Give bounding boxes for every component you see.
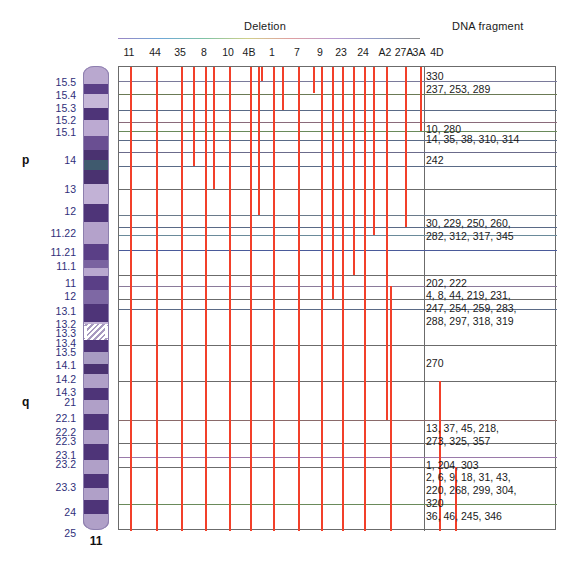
deletion-bar-mid-8b [213, 67, 215, 189]
chromosome-band [83, 488, 109, 500]
chromosome-band-labels: 15.515.415.315.215.114131211.2211.2111.1… [0, 0, 76, 570]
deletion-column-label-4D: 4D [430, 46, 443, 58]
dna-fragment-header-title: DNA fragment [452, 20, 523, 32]
chromosome-band [83, 136, 109, 150]
chromosome-band [83, 160, 109, 170]
chromosome-band [83, 430, 109, 444]
deletion-column-label-8: 8 [201, 46, 207, 58]
deletion-column-label-23: 23 [335, 46, 347, 58]
chromosome-band [83, 364, 109, 374]
band-label-11.22: 11.22 [51, 227, 77, 239]
band-label-11: 11 [65, 277, 76, 289]
grid-row-divider [119, 110, 557, 111]
chromosome-band [83, 444, 109, 460]
chromosome-band [83, 276, 109, 290]
chromosome-band [83, 304, 109, 322]
deletion-bar-4B [250, 67, 252, 531]
grid-row-divider [119, 275, 557, 276]
band-label-15.3: 15.3 [56, 102, 76, 114]
deletion-bar-1 [273, 67, 275, 531]
deletion-bar-7 [298, 67, 300, 531]
grid-row-divider [119, 189, 557, 190]
deletion-column-label-7: 7 [294, 46, 300, 58]
deletion-bar-35 [181, 67, 183, 531]
chromosome-number-label: 11 [83, 534, 109, 548]
chromosome-band [83, 290, 109, 304]
grid-row-divider [119, 94, 557, 95]
deletion-bar-long-24b [373, 67, 375, 235]
dna-fragment-list: 13, 37, 45, 218, 273, 325, 357 [426, 422, 499, 448]
centromere-pinch [105, 326, 109, 338]
band-label-15.4: 15.4 [56, 89, 76, 101]
centromere-pinch [83, 326, 87, 338]
grid-row-divider [119, 250, 557, 251]
dna-fragment-list: 2, 6, 9, 18, 31, 43, 220, 268, 299, 304,… [426, 471, 517, 510]
band-label-12: 12 [64, 205, 76, 217]
band-label-23.3: 23.3 [56, 481, 76, 493]
deletion-column-label-44: 44 [149, 46, 161, 58]
deletion-column-labels: 1144358104B1792324A227A3A4D [0, 46, 562, 60]
chromosome-band [83, 204, 109, 222]
band-label-12: 12 [64, 290, 76, 302]
deletion-column-label-9: 9 [317, 46, 323, 58]
deletion-bar-q-270 [390, 286, 392, 531]
grid-row-divider [119, 166, 557, 167]
deletion-grid: 330237, 253, 28910, 28014, 35, 38, 310, … [118, 66, 556, 530]
chromosome-band [83, 374, 109, 388]
grid-row-divider [119, 286, 557, 287]
chromosome-band [83, 244, 109, 260]
band-label-14.2: 14.2 [56, 373, 76, 385]
grid-row-divider [119, 152, 557, 153]
deletion-column-label-4B: 4B [243, 46, 256, 58]
chromosome-band [83, 66, 109, 84]
grid-row-divider [119, 122, 557, 123]
deletion-bar-long-9b [332, 67, 334, 299]
chromosome-deletion-map-figure: Deletion DNA fragment 1144358104B1792324… [0, 0, 562, 570]
band-label-21: 21 [64, 396, 76, 408]
band-label-15.2: 15.2 [56, 114, 76, 126]
deletion-bar-short-10b [229, 67, 231, 94]
grid-row-divider [119, 420, 557, 421]
deletion-column-label-3A: 3A [413, 46, 426, 58]
deletion-bar-10 [229, 67, 231, 531]
chromosome-ideogram [83, 66, 109, 530]
deletion-column-label-10: 10 [222, 46, 234, 58]
chromosome-band [83, 150, 109, 160]
dna-fragment-list: 330 [426, 70, 444, 83]
band-label-23.2: 23.2 [56, 458, 76, 470]
deletion-bar-long-23b [353, 67, 355, 275]
deletion-column-label-24: 24 [357, 46, 369, 58]
dna-fragment-list: 14, 35, 38, 310, 314 [426, 133, 519, 146]
grid-row-divider [119, 215, 557, 216]
chromosome-band [83, 352, 109, 364]
chromosome-band [83, 474, 109, 488]
band-label-15.1: 15.1 [56, 126, 76, 138]
deletion-bar-short-7b [313, 67, 315, 93]
band-label-13.1: 13.1 [56, 305, 76, 317]
deletion-header-title: Deletion [205, 20, 325, 32]
band-label-25: 25 [64, 527, 76, 539]
dna-fragment-list: 36, 46, 245, 346 [426, 510, 502, 523]
deletion-bar-11 [130, 67, 132, 531]
deletion-column-label-11: 11 [124, 46, 135, 58]
band-label-13: 13 [64, 183, 76, 195]
band-label-11.21: 11.21 [51, 246, 77, 258]
band-label-13.5: 13.5 [56, 346, 76, 358]
grid-row-divider [119, 345, 557, 346]
chromosome-band [83, 414, 109, 430]
deletion-column-label-1: 1 [269, 46, 275, 58]
chromosome-band [83, 170, 109, 184]
deletion-bar-short-1b [282, 67, 284, 110]
grid-row-divider [119, 381, 557, 382]
dna-fragment-list: 30, 229, 250, 260, 282, 312, 317, 345 [426, 217, 514, 243]
chromosome-arm-label-q: q [22, 395, 29, 409]
chromosome-band [83, 260, 109, 268]
dna-fragment-list: 4, 8, 44, 219, 231, 247, 254, 259, 283, … [426, 289, 517, 328]
grid-row-divider [119, 81, 557, 82]
chromosome-band [83, 108, 109, 120]
grid-row-divider [119, 131, 557, 132]
deletion-bar-8 [205, 67, 207, 531]
chromosome-band [83, 388, 109, 400]
band-label-22.1: 22.1 [56, 412, 76, 424]
deletion-column-label-A2: A2 [379, 46, 392, 58]
